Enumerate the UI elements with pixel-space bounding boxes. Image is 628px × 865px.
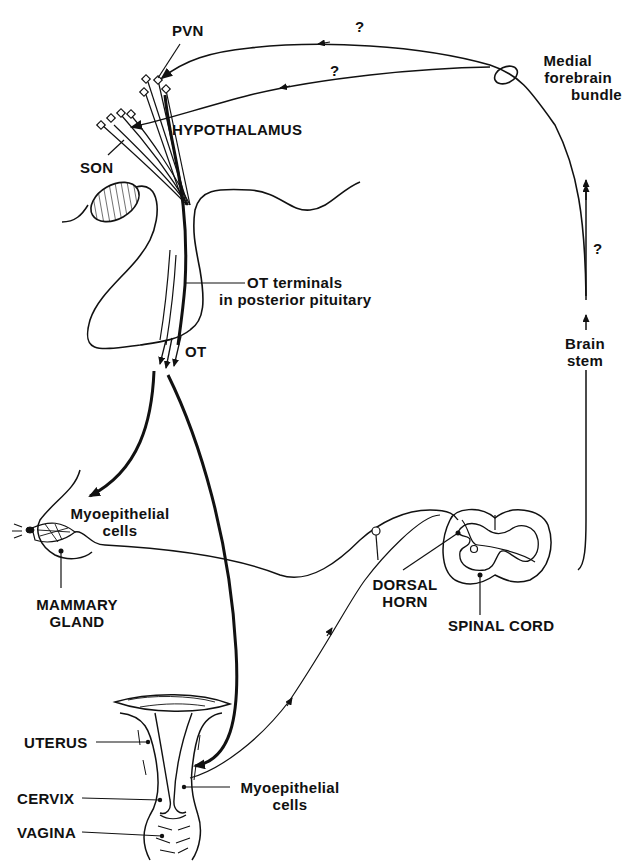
label-myoepithelial-breast: Myoepithelial cells [60,505,180,539]
dorsal-horn-line1: DORSAL [365,576,445,593]
dorsal-horn-line2: HORN [365,593,445,610]
medial-forebrain-line1: Medial [522,52,622,69]
label-cervix: CERVIX [17,790,74,807]
ot-terminals-line1: OT terminals [247,274,371,291]
medial-forebrain-line3: bundle [522,86,622,103]
label-dorsal-horn: DORSAL HORN [365,576,445,610]
label-brain-stem: Brain stem [555,335,615,369]
label-mammary-gland: MAMMARY GLAND [22,596,132,630]
mammary-line1: MAMMARY [22,596,132,613]
ot-to-breast-arrow [90,371,154,496]
ot-to-uterus-arrow [168,375,237,766]
vagina-leader [82,832,162,836]
cervix-leader [82,798,160,800]
label-ot: OT [185,343,206,360]
ot-terminals-line2: in posterior pituitary [219,291,371,308]
label-medial-forebrain-bundle: Medial forebrain bundle [522,52,622,103]
oxytocin-pathway-diagram [0,0,628,865]
myoepithelial-breast-line1: Myoepithelial [60,505,180,522]
label-ot-terminals: OT terminals in posterior pituitary [247,274,371,308]
myoepithelial-uterus-line2: cells [230,796,350,813]
label-question-brainstem: ? [593,240,602,257]
medial-forebrain-line2: forebrain [522,69,622,86]
label-hypothalamus: HYPOTHALAMUS [172,121,302,138]
mammary-line2: GLAND [22,613,132,630]
uterus-cervix-vagina [82,695,230,860]
myoepithelial-breast-line2: cells [60,522,180,539]
brain-stem-line1: Brain [555,335,615,352]
optic-chiasm [84,174,146,229]
label-question-upper: ? [355,18,364,35]
brain-stem-line2: stem [555,352,615,369]
myoepithelial-uterus-line1: Myoepithelial [230,779,350,796]
label-spinal-cord: SPINAL CORD [448,617,554,634]
label-myoepithelial-uterus: Myoepithelial cells [230,779,350,813]
label-question-lower: ? [330,62,339,79]
label-son: SON [80,159,113,176]
label-vagina: VAGINA [17,824,76,841]
brain-stem-pathway [578,180,586,570]
afferent-pathway-lower [132,67,490,127]
label-uterus: UTERUS [24,734,87,751]
label-pvn: PVN [172,22,204,39]
